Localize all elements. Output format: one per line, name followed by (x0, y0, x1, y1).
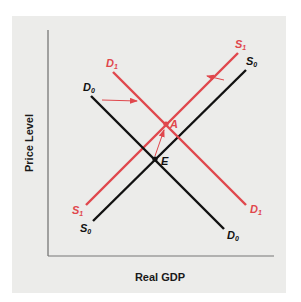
label-s1-bottom: S1 (72, 204, 83, 217)
x-axis-label: Real GDP (135, 271, 185, 283)
point-e-label: E (161, 155, 169, 167)
point-e (152, 156, 157, 161)
label-s0-bottom: S0 (80, 222, 91, 235)
label-s0-top: S0 (246, 55, 257, 68)
curve-s0 (93, 70, 246, 221)
label-s1-top: S1 (235, 38, 246, 51)
label-d0-bottom: D0 (227, 229, 239, 242)
label-d1-bottom: D1 (250, 203, 262, 216)
demand-shift-arrow (102, 100, 137, 101)
label-d0-top: D0 (83, 81, 95, 94)
ad-as-diagram: A E S1 S1 S0 S0 D1 D1 D0 D0 Real GDP Pri… (0, 0, 301, 302)
y-axis-label: Price Level (23, 114, 35, 172)
curve-s1 (86, 53, 238, 205)
label-d1-top: D1 (106, 57, 118, 70)
point-a-label: A (169, 118, 178, 130)
point-a (163, 121, 168, 126)
